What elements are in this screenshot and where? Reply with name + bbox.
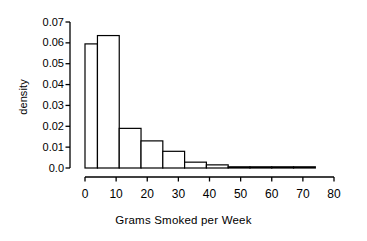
histogram-bar bbox=[228, 167, 250, 168]
histogram-bar bbox=[97, 36, 119, 168]
histogram-bar bbox=[250, 167, 272, 168]
histogram-bar bbox=[294, 167, 316, 168]
plot-area bbox=[0, 0, 367, 241]
histogram-bar bbox=[85, 44, 97, 168]
histogram-bar bbox=[141, 141, 163, 168]
histogram-bar bbox=[272, 167, 294, 168]
histogram-bar bbox=[119, 128, 141, 168]
histogram-bar bbox=[185, 162, 207, 168]
histogram-bar bbox=[206, 165, 228, 168]
histogram-chart: density 0.00.010.020.030.040.050.060.07 … bbox=[0, 0, 367, 241]
bars-group bbox=[85, 36, 315, 168]
histogram-bar bbox=[163, 151, 185, 168]
